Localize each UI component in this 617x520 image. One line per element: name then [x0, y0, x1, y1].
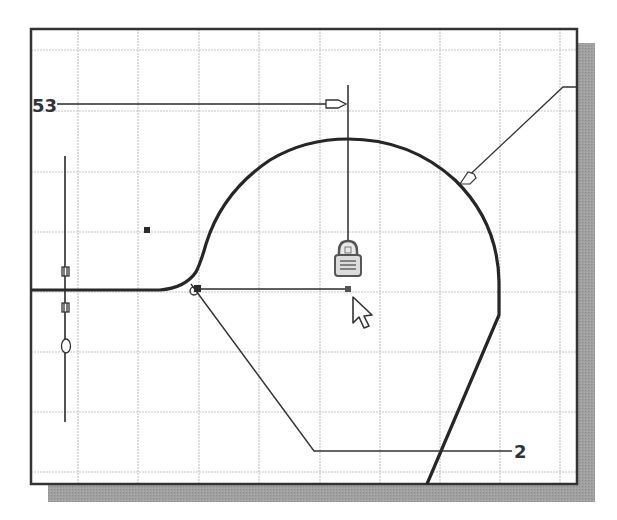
coincident-constraint-icon[interactable]: [62, 267, 69, 276]
horizontal-constraint-icon[interactable]: [62, 303, 69, 312]
sketch-point[interactable]: [144, 227, 150, 233]
arc-center-point[interactable]: [345, 286, 351, 292]
dimension-value-2[interactable]: 2: [514, 441, 527, 462]
tangent-constraint-icon[interactable]: [62, 339, 71, 353]
lock-icon[interactable]: [335, 241, 361, 276]
dimension-value-53[interactable]: 53: [32, 95, 57, 116]
sketch-endpoint[interactable]: [194, 285, 201, 292]
sketch-canvas[interactable]: 53 2: [0, 0, 617, 520]
